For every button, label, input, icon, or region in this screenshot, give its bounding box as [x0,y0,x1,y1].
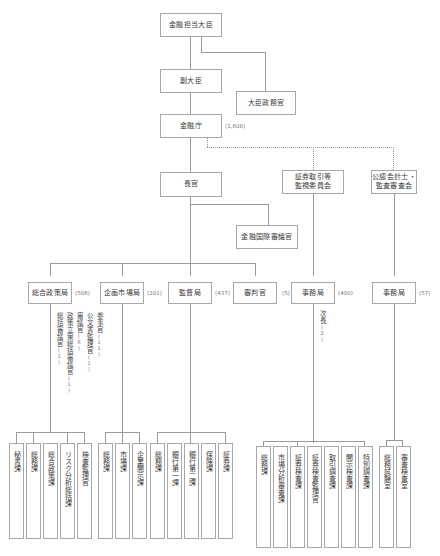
official-policy-planning-dg: 政策立案総括審議官(1) [65,312,73,393]
division-box: 総務課 [98,443,113,539]
division-box: 特別調査課 [358,446,373,548]
division-box: リスク分析総括課 [60,443,75,539]
parliamentary-secretary-label: 大臣政務官 [248,99,285,108]
cpa-secretariat-count: (57) [419,290,430,296]
sesc-secretariat-label: 事務局 [302,289,324,298]
dotted-connector [207,137,208,147]
judge-count: (5) [282,290,290,296]
division-box: 保険課 [201,443,216,539]
judge-label: 審判官 [244,289,266,298]
cpaaob-label-line2: 監査審査会 [376,182,413,191]
connector [313,193,314,276]
fsa-label: 金融庁 [180,122,202,131]
division-box: 総務試験室 [379,446,394,548]
bureau-policy-label: 総合政策局 [32,289,69,298]
sesc-secretariat-box: 事務局 [291,282,335,304]
dotted-connector [207,147,394,148]
cpa-secretariat-box: 事務局 [372,282,416,304]
connector [105,432,140,433]
connector [268,204,269,226]
connector [122,304,123,443]
division-box: 証券課 [218,443,233,539]
official-deputy-dg: 審議官(6) [75,312,83,351]
bureau-planning-box: 企画市場局 [100,282,144,304]
parliamentary-secretary-box: 大臣政務官 [236,91,296,115]
connector [157,432,158,443]
connector [33,432,34,443]
sesc-label-line1: 証券取引等 [295,173,332,182]
connector [201,52,266,53]
connector [225,432,226,443]
bureau-planning-label: 企画市場局 [104,289,141,298]
division-box: 市場分析審査課 [273,446,288,548]
connector [67,432,68,443]
connector [50,263,51,276]
bureau-supervision-label: 監督局 [179,289,201,298]
bureau-policy-count: (506) [75,290,90,296]
connector [105,432,106,443]
cpaaob-box: 公認会計士・ 監査審査会 [371,170,417,194]
division-box: 市場課 [115,443,130,539]
official-sesc-deputy: 次長(2) [318,310,326,342]
connector [16,432,17,443]
official-records-officer: 公文書監理官(1) [85,312,93,372]
connector [190,204,269,205]
connector [190,137,191,173]
bureau-supervision-count: (437) [215,290,230,296]
commissioner-label: 長官 [184,180,199,189]
division-box: 総合政策課 [43,443,58,539]
bureau-planning-count: (201) [147,290,162,296]
vice-intl-box: 金融国際審議官 [236,225,298,249]
bureau-policy-box: 総合政策局 [28,282,72,304]
cpaaob-label-line1: 公認会計士・ [372,173,416,182]
connector [394,193,395,276]
division-box: 総務課 [26,443,41,539]
minister-label: 金融担当大臣 [169,21,213,30]
connector [84,432,85,443]
division-box: 証券検査課 [290,446,305,548]
division-box: 総務課 [256,446,271,548]
sesc-box: 証券取引等 監視委員会 [282,170,344,194]
connector [50,263,256,264]
connector [263,441,365,442]
dotted-connector [393,147,394,170]
vice-intl-label: 金融国際審議官 [241,233,292,242]
vice-minister-box: 副大臣 [160,69,222,93]
division-box: 秘書課 [9,443,24,539]
fsa-box: 金融庁 [160,114,222,138]
vice-minister-label: 副大臣 [180,77,202,86]
division-box: 証券検査監理官 [307,446,322,548]
cpa-secretariat-label: 事務局 [383,289,405,298]
connector [122,263,123,276]
connector [50,304,51,432]
connector [313,304,314,443]
connector [394,304,395,441]
connector [201,36,202,52]
division-box: 総務課 [150,443,165,539]
dotted-connector [313,147,314,170]
commissioner-box: 長官 [160,172,222,197]
official-counselor: 参事官(11) [95,312,103,357]
official-senior-dg: 総括審議官(1) [55,312,63,365]
sesc-label-line2: 監視委員会 [295,182,332,191]
division-box: 審査検査室 [396,446,411,548]
division-box: 銀行第二課 [184,443,199,539]
connector [16,432,84,433]
connector [157,432,226,433]
connector [386,440,403,441]
division-box: 企業開示課 [132,443,147,539]
division-box: 取引調査課 [324,446,339,548]
fsa-count: (1,608) [225,123,245,129]
connector [190,196,191,276]
connector [139,432,140,443]
connector [190,36,191,69]
sesc-secretariat-count: (400) [338,290,353,296]
judge-box: 審判官 [233,282,277,304]
connector [265,52,266,92]
division-box: 検査監理官 [77,443,92,539]
division-box: 開示検査課 [341,446,356,548]
connector [255,263,256,276]
minister-box: 金融担当大臣 [160,13,222,37]
connector [190,92,191,114]
bureau-supervision-box: 監督局 [168,282,212,304]
